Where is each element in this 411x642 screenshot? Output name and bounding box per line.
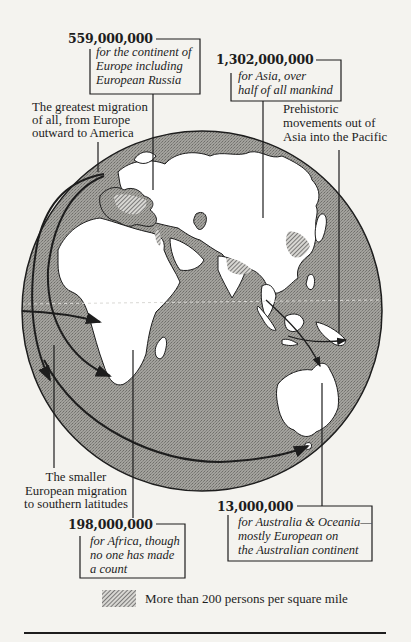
europe-note-line-3: European Russia <box>96 74 181 88</box>
africa-population: 198,000,000 <box>68 518 156 531</box>
prehistoric-line-3: Asia into the Pacific <box>283 131 387 144</box>
hatched-density-swatch <box>102 590 136 607</box>
smaller-migration-line-3: to southern latitudes <box>20 498 132 511</box>
oceania-note-line-2: mostly European on <box>238 530 338 544</box>
africa-note-line-3: a count <box>90 563 127 577</box>
oceania-note-line-1: for Australia & Oceania— <box>238 516 371 530</box>
asia-note-line-1: for Asia, over <box>238 70 306 84</box>
oceania-note-line-3: the Australian continent <box>238 544 359 558</box>
asia-note-line-2: half of all mankind <box>238 84 333 98</box>
africa-note-line-1: for Africa, though <box>90 535 180 549</box>
bottom-rule <box>24 632 386 634</box>
europe-note-line-2: Europe including <box>96 60 183 74</box>
prehistoric-line-1: Prehistoric <box>283 103 338 116</box>
europe-population: 559,000,000 <box>68 32 156 45</box>
smaller-migration-line-1: The smaller <box>20 471 132 484</box>
africa-note-line-2: no one has made <box>90 549 174 563</box>
asia-population: 1,302,000,000 <box>216 53 316 66</box>
oceania-population: 13,000,000 <box>217 500 296 513</box>
legend-label: More than 200 persons per square mile <box>145 591 348 607</box>
greatest-migration-line-3: outward to America <box>32 127 134 140</box>
prehistoric-line-2: movements out of <box>283 117 375 130</box>
europe-note-line-1: for the continent of <box>96 46 191 60</box>
